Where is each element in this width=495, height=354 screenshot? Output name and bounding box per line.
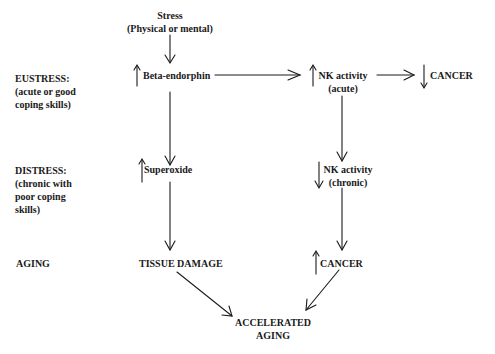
up-arrow-icon-nk-acute xyxy=(310,65,316,86)
arrow-tissue-damage-to-accelerated-aging xyxy=(177,272,232,316)
arrow-beta-to-nk-acute xyxy=(215,70,300,80)
up-arrow-icon-beta-endorphin xyxy=(134,65,140,86)
arrow-superoxide-to-tissue-damage xyxy=(165,182,175,250)
up-arrow-icon-cancer-aging xyxy=(313,251,319,274)
arrow-nk-chronic-to-cancer xyxy=(337,188,347,250)
up-arrow-icon-superoxide xyxy=(139,159,145,182)
arrows-layer xyxy=(0,0,495,354)
arrow-nk-acute-to-nk-chronic xyxy=(337,96,347,161)
down-arrow-icon-nk-chronic xyxy=(315,162,323,188)
down-arrow-icon-cancer-eustress xyxy=(421,65,427,88)
arrow-stress-to-beta xyxy=(165,35,175,63)
arrow-beta-to-superoxide xyxy=(165,92,175,165)
arrow-nk-acute-to-cancer xyxy=(377,70,414,80)
arrow-cancer-to-accelerated-aging xyxy=(306,270,339,310)
